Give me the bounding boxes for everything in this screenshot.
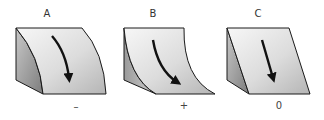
panel-a: A – xyxy=(16,8,106,112)
panel-a-sign: – xyxy=(74,101,79,112)
panel-c-sign: 0 xyxy=(276,100,282,111)
curvature-diagram: A – B + C 0 xyxy=(0,0,324,120)
panel-b-sign: + xyxy=(180,100,188,111)
panel-a-label: A xyxy=(44,8,51,19)
panel-b-label: B xyxy=(150,8,157,19)
panel-b: B + xyxy=(124,8,215,111)
panel-c-label: C xyxy=(255,8,262,19)
panel-c: C 0 xyxy=(227,8,310,111)
